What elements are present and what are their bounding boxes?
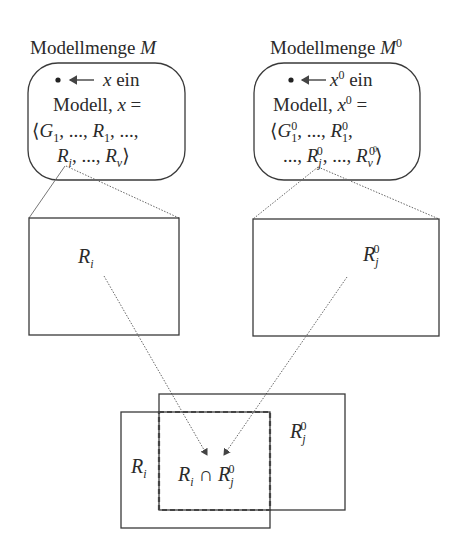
left-model-point xyxy=(55,77,60,82)
left-relation-label: Ri xyxy=(78,245,94,267)
left-set-line-3: ⟨G1, ..., R1, ..., xyxy=(32,120,139,142)
right-relation-label: Rj0 xyxy=(363,243,380,265)
right-model-point xyxy=(288,77,293,82)
left-set-title: Modellmenge M xyxy=(30,37,156,59)
right-set-title: Modellmenge M0 xyxy=(270,37,402,59)
right-arrow-to-intersection xyxy=(224,277,347,455)
right-set-line-2: Modell, x0 = xyxy=(273,94,367,116)
left-zoom-line-dotted xyxy=(66,166,179,218)
right-set-line-4: ..., Rj0, ..., Rν00⟩ xyxy=(283,145,382,167)
bottom-right-rect-label: Rj0 xyxy=(290,420,307,442)
intersection-rect xyxy=(159,412,270,510)
right-set-line-1: x0 ein xyxy=(330,69,372,91)
right-zoom-line-dotted-b xyxy=(318,167,439,219)
left-zoom-line-solid xyxy=(29,166,65,218)
left-set-line-4: Ri, ..., Rν⟩ xyxy=(57,145,130,167)
left-arrow-to-intersection xyxy=(104,276,207,455)
right-zoom-line-dotted-a xyxy=(253,167,318,219)
left-set-line-2: Modell, x = xyxy=(53,94,141,116)
right-set-line-3: ⟨G10, ..., R10, xyxy=(270,120,353,142)
right-relation-rect xyxy=(253,219,439,336)
left-set-line-1: x ein xyxy=(103,69,139,91)
intersection-label: Ri ∩ Rj0 xyxy=(178,463,235,485)
bottom-left-rect-label: Ri xyxy=(131,455,147,477)
